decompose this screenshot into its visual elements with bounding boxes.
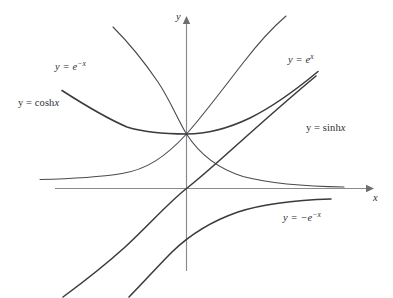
curve-label-e-to-the-x: y = ex (288, 55, 314, 66)
curve-label-cosh-x: y = coshx (18, 98, 59, 109)
x-axis-label: x (373, 193, 378, 204)
y-axis-arrowhead (183, 16, 190, 24)
curve-label-negative-e-to-the-minus-x-lhs: y = −e (283, 212, 312, 223)
curve-label-cosh-x-var: x (54, 97, 59, 108)
curve-label-negative-e-to-the-minus-x-exponent: −x (312, 210, 321, 219)
curve-label-e-to-the-minus-x-lhs: y = e (55, 61, 77, 72)
curve-label-e-to-the-x-lhs: y = e (288, 54, 310, 65)
curve-label-sinh-x: y = sinhx (306, 123, 346, 134)
x-axis (55, 185, 374, 192)
curve-e-to-the-x (40, 16, 286, 180)
curve-label-e-to-the-minus-x-exponent: −x (77, 59, 86, 68)
y-axis-label: y (176, 12, 181, 23)
curve-sinh-x (63, 76, 316, 297)
hyperbolic-functions-figure: y = e−x y = coshx y = ex y = sinhx y = −… (0, 0, 393, 298)
y-axis (183, 16, 190, 271)
curve-label-negative-e-to-the-minus-x: y = −e−x (283, 213, 321, 224)
curve-label-sinh-x-text: y = sinh (306, 122, 341, 133)
curve-label-e-to-the-x-exponent: x (310, 52, 313, 61)
curve-cosh-x (62, 72, 318, 135)
curve-label-cosh-x-text: y = cosh (18, 97, 54, 108)
plot-canvas (0, 0, 393, 298)
curve-label-e-to-the-minus-x: y = e−x (55, 62, 86, 73)
curve-label-sinh-x-var: x (341, 122, 346, 133)
